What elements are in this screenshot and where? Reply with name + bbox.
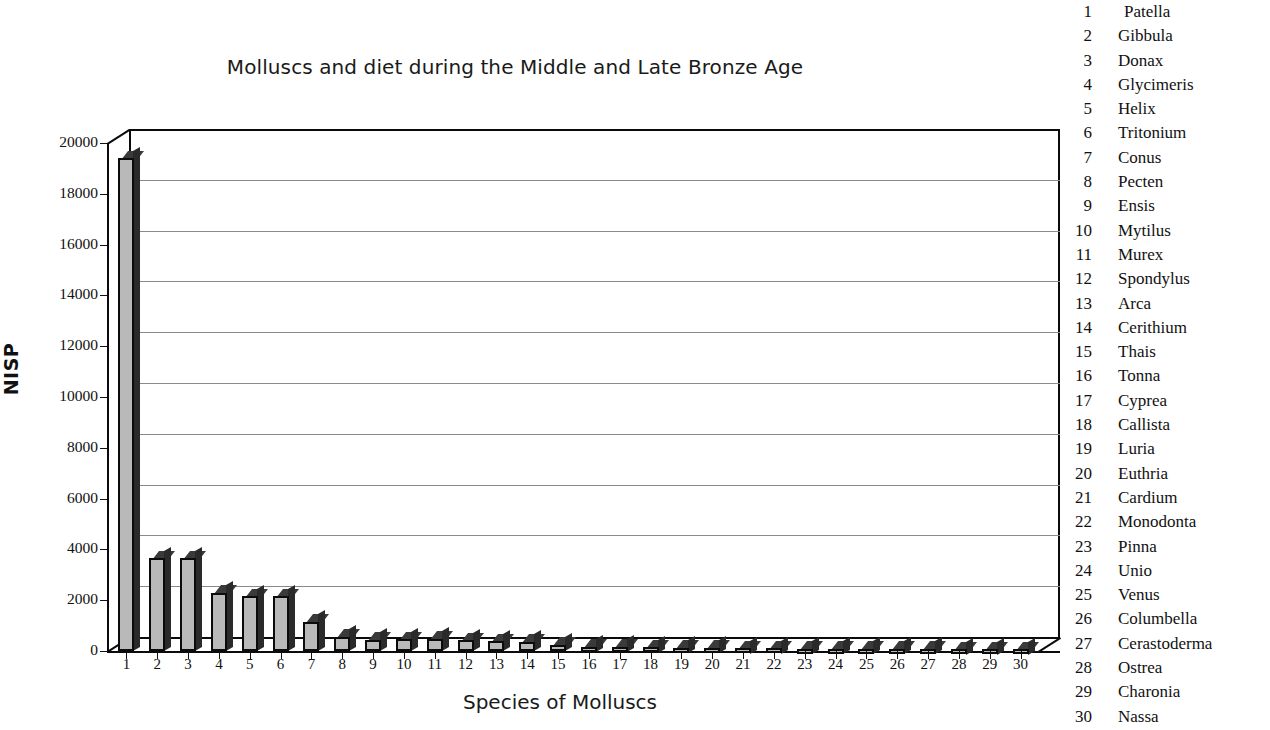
y-axis-tick-label: 8000 (28, 438, 98, 456)
legend-item[interactable]: 6Tritonium (1060, 121, 1270, 145)
legend-item-number: 21 (1060, 486, 1098, 510)
bar-side-face (442, 627, 449, 651)
legend-item[interactable]: 28Ostrea (1060, 656, 1270, 680)
bar-side-face (658, 636, 665, 653)
x-axis-tick-label: 19 (664, 656, 698, 673)
legend-item-number: 22 (1060, 510, 1098, 534)
legend-item[interactable]: 30Nassa (1060, 705, 1270, 729)
legend-item-label: Nassa (1098, 705, 1159, 729)
legend-item-label: Pinna (1098, 535, 1157, 559)
y-axis-tick-label: 6000 (28, 489, 98, 507)
legend-item-label: Luria (1098, 437, 1155, 461)
legend-item-number: 11 (1060, 243, 1098, 267)
legend-item-label: Callista (1098, 413, 1170, 437)
y-axis-tick-label: 16000 (28, 235, 98, 253)
legend-item-number: 4 (1060, 73, 1098, 97)
bar[interactable] (149, 558, 165, 651)
legend-item[interactable]: 13Arca (1060, 292, 1270, 316)
bar-side-face (195, 546, 202, 651)
legend-item[interactable]: 19Luria (1060, 437, 1270, 461)
bar[interactable] (519, 642, 535, 651)
legend-item-number: 8 (1060, 170, 1098, 194)
legend-item[interactable]: 15Thais (1060, 340, 1270, 364)
x-axis-tick-label: 27 (911, 656, 945, 673)
legend-item[interactable]: 27Cerastoderma (1060, 632, 1270, 656)
bar[interactable] (334, 637, 350, 651)
gridline (129, 281, 1060, 282)
legend-item[interactable]: 12Spondylus (1060, 267, 1270, 291)
x-axis-tick-label: 30 (1004, 656, 1038, 673)
legend-item[interactable]: 7Conus (1060, 146, 1270, 170)
legend-item[interactable]: 2Gibbula (1060, 24, 1270, 48)
bar[interactable] (211, 593, 227, 651)
legend-item[interactable]: 4Glycimeris (1060, 73, 1270, 97)
legend-item-number: 30 (1060, 705, 1098, 729)
legend-item[interactable]: 8Pecten (1060, 170, 1270, 194)
legend-item[interactable]: 22Monodonta (1060, 510, 1270, 534)
legend-item[interactable]: 21Cardium (1060, 486, 1270, 510)
bar[interactable] (118, 158, 134, 651)
bar-side-face (133, 146, 140, 651)
bar-side-face (257, 585, 264, 651)
x-axis-tick-label: 14 (510, 656, 544, 673)
legend-item-number: 24 (1060, 559, 1098, 583)
legend-item[interactable]: 17Cyprea (1060, 389, 1270, 413)
gridline (129, 434, 1060, 435)
bar[interactable] (396, 639, 412, 651)
legend-item[interactable]: 29Charonia (1060, 680, 1270, 704)
legend-item[interactable]: 14Cerithium (1060, 316, 1270, 340)
bar[interactable] (427, 639, 443, 651)
legend-item[interactable]: 11Murex (1060, 243, 1270, 267)
legend-item-label: Helix (1098, 97, 1156, 121)
bar[interactable] (488, 641, 504, 651)
legend-item[interactable]: 25Venus (1060, 583, 1270, 607)
legend-item-number: 3 (1060, 49, 1098, 73)
legend-item[interactable]: 10Mytilus (1060, 219, 1270, 243)
y-axis-tick-label: 18000 (28, 184, 98, 202)
y-axis-tick-mark (100, 194, 107, 195)
gridline (129, 231, 1060, 232)
legend-item-label: Murex (1098, 243, 1163, 267)
x-axis-tick-label: 29 (973, 656, 1007, 673)
plot-frame-line (107, 143, 109, 653)
y-axis-tick-label: 14000 (28, 285, 98, 303)
gridline (129, 383, 1060, 384)
bar[interactable] (242, 596, 258, 651)
legend-item-number: 1 (1060, 0, 1098, 24)
legend-item-number: 14 (1060, 316, 1098, 340)
legend-item[interactable]: 26Columbella (1060, 607, 1270, 631)
gridline (129, 180, 1060, 181)
bar[interactable] (303, 622, 319, 651)
legend-item[interactable]: 20Euthria (1060, 462, 1270, 486)
legend-item[interactable]: 5Helix (1060, 97, 1270, 121)
legend-item[interactable]: 24Unio (1060, 559, 1270, 583)
bar[interactable] (273, 596, 289, 651)
legend-item-label: Monodonta (1098, 510, 1196, 534)
legend-item-label: Donax (1098, 49, 1163, 73)
legend-item[interactable]: 23Pinna (1060, 535, 1270, 559)
legend-item[interactable]: 9Ensis (1060, 194, 1270, 218)
x-axis-tick-label: 3 (171, 656, 205, 673)
legend-item[interactable]: 16Tonna (1060, 364, 1270, 388)
y-axis-tick-label: 12000 (28, 336, 98, 354)
x-axis-tick-label: 23 (788, 656, 822, 673)
bar-side-face (503, 629, 510, 651)
legend-item[interactable]: 3Donax (1060, 49, 1270, 73)
gridline (129, 586, 1060, 587)
legend-item-number: 20 (1060, 462, 1098, 486)
x-axis-tick-label: 11 (418, 656, 452, 673)
legend-item[interactable]: 1Patella (1060, 0, 1270, 24)
y-axis-tick-label: 10000 (28, 387, 98, 405)
legend-item-label: Pecten (1098, 170, 1163, 194)
legend-item[interactable]: 18Callista (1060, 413, 1270, 437)
bar[interactable] (365, 640, 381, 651)
x-axis-tick-label: 21 (726, 656, 760, 673)
legend-item-number: 12 (1060, 267, 1098, 291)
bar[interactable] (458, 640, 474, 651)
legend-item-label: Spondylus (1098, 267, 1190, 291)
bar[interactable] (180, 558, 196, 651)
plot-area: 2000018000160001400012000100008000600040… (0, 0, 1060, 730)
legend-item-number: 23 (1060, 535, 1098, 559)
legend-list: 1Patella2Gibbula3Donax4Glycimeris5Helix6… (1060, 0, 1270, 729)
gridline (129, 535, 1060, 536)
